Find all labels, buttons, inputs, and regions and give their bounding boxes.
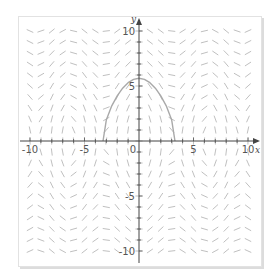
slope-segment [27, 239, 33, 242]
slope-segment [225, 116, 227, 122]
slope-segment [117, 127, 118, 133]
slope-segment [60, 51, 65, 55]
slope-segment [126, 205, 130, 210]
slope-segment [148, 73, 152, 78]
slope-segment [214, 160, 216, 166]
slope-segment [147, 29, 152, 33]
slope-segment [82, 227, 87, 232]
slope-segment [213, 182, 217, 187]
slope-segment [83, 105, 85, 111]
slope-segment [191, 216, 195, 221]
slope-segment [192, 193, 195, 198]
slope-segment [234, 41, 240, 43]
y-tick-label: -10 [119, 246, 135, 257]
slope-segment [158, 227, 163, 231]
slope-segment [103, 53, 109, 54]
slope-segment [115, 238, 120, 242]
slope-segment [50, 62, 54, 67]
slope-segment [147, 227, 152, 231]
slope-segment [169, 74, 175, 75]
slope-segment [202, 172, 207, 176]
slope-segment [246, 105, 250, 110]
slope-segment [62, 149, 63, 155]
slope-segment [49, 238, 54, 242]
slope-segment [38, 41, 44, 43]
slope-segment [103, 195, 109, 196]
slope-segment [93, 40, 98, 44]
slope-segment [72, 149, 75, 155]
slope-segment [180, 40, 185, 44]
slope-segment [83, 83, 86, 88]
slope-segment [158, 238, 163, 242]
slope-segment [82, 249, 87, 253]
slope-segment [158, 40, 163, 44]
slope-segment [103, 31, 109, 32]
slope-segment [147, 40, 152, 44]
slope-segment [94, 105, 97, 111]
slope-segment [128, 149, 129, 155]
slope-segment [82, 29, 87, 33]
slope-segment [71, 239, 77, 241]
slope-segment [49, 40, 54, 44]
slope-segment [38, 217, 44, 220]
slope-segment [212, 29, 218, 32]
slope-segment [169, 53, 175, 54]
slope-segment [225, 160, 227, 166]
slope-segment [38, 228, 44, 231]
slope-segment [72, 161, 76, 166]
slope-segment [28, 194, 33, 198]
slope-segment [182, 160, 184, 166]
slope-segment [127, 94, 130, 100]
slope-segment [103, 184, 109, 186]
slope-segment [169, 96, 175, 98]
slope-segment [245, 250, 251, 253]
slope-segment [182, 149, 183, 155]
slope-segment [115, 83, 119, 88]
slope-segment [224, 238, 229, 242]
slope-segment [158, 51, 163, 55]
slope-segment [70, 250, 76, 251]
slope-segment [39, 106, 43, 111]
slope-segment [51, 105, 53, 111]
slope-segment [224, 227, 228, 232]
slope-segment [50, 94, 53, 100]
slope-segment [169, 240, 175, 241]
slope-segment [234, 239, 240, 241]
slope-segment [115, 51, 120, 55]
slope-segment [203, 127, 206, 133]
slope-segment [213, 216, 218, 220]
slope-segment [192, 182, 195, 188]
slope-segment [169, 161, 175, 164]
slope-segment [115, 205, 119, 210]
slope-segment [93, 249, 98, 252]
slope-segment [245, 216, 250, 219]
slope-segment [103, 217, 109, 218]
slope-segment [50, 72, 54, 77]
slope-segment [169, 206, 175, 207]
slope-segment [94, 94, 97, 99]
slope-segment [71, 228, 77, 230]
slope-segment [180, 227, 185, 231]
slope-field-plot: -10-50510-10-5510xy [0, 0, 276, 280]
slope-segment [213, 94, 217, 99]
slope-segment [93, 62, 98, 66]
slope-segment [235, 172, 239, 177]
slope-segment [224, 72, 228, 77]
slope-segment [213, 205, 218, 209]
slope-segment [201, 239, 207, 241]
slope-segment [224, 51, 228, 56]
slope-segment [39, 160, 42, 166]
slope-segment [245, 227, 251, 230]
slope-segment [180, 205, 184, 210]
slope-segment [169, 195, 175, 196]
slope-segment [83, 182, 86, 188]
slope-segment [27, 73, 32, 77]
slope-segment [38, 84, 43, 88]
slope-segment [147, 51, 152, 55]
slope-segment [51, 160, 53, 166]
slope-segment [128, 127, 129, 133]
slope-segment [116, 160, 118, 166]
slope-segment [104, 150, 108, 155]
slope-segment [201, 52, 207, 54]
slope-segment [147, 238, 152, 242]
